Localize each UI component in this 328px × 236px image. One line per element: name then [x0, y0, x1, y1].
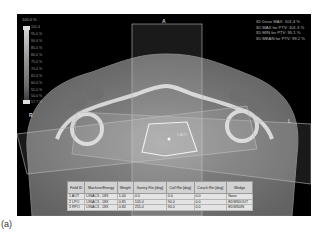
- stat-line: 3D MIN for PTV: 95.1 %: [256, 30, 305, 36]
- beam-table: Field ID Machine/Energy Weight Gantry Rt…: [67, 181, 253, 211]
- column-header: Wedge: [227, 182, 253, 194]
- scale-tick: 95.0 %: [31, 32, 42, 36]
- column-header: Gantry Rtn [deg]: [133, 182, 166, 194]
- cell: 90.0: [166, 205, 194, 211]
- table-row[interactable]: 3 RPO LINAC3 - 18X 0.84 255.0 90.0 0.0 E…: [68, 205, 253, 211]
- cell: EDW30IN: [227, 205, 253, 211]
- isocenter-marker: [168, 138, 171, 141]
- scale-bottom-handle[interactable]: [23, 100, 30, 104]
- cell: 0.84: [117, 205, 133, 211]
- scale-tick: 90.0 %: [31, 39, 42, 43]
- column-header: Coll Rtn [deg]: [166, 182, 194, 194]
- orientation-right: R: [29, 112, 33, 118]
- scale-header: 100.0 %: [22, 17, 37, 22]
- scale-tick: 50.0 %: [31, 94, 42, 98]
- field-label: 1 AOT: [177, 133, 188, 137]
- cell: 255.0: [133, 205, 166, 211]
- scale-bar: [24, 27, 29, 101]
- scale-tick: 70.0 %: [31, 67, 42, 71]
- scale-tick: 75.0 %: [31, 60, 42, 64]
- dose-statistics: 3D Dose MAX: 101.4 % 3D MAX for PTV: 101…: [256, 19, 305, 41]
- scale-tick: 55.0 %: [31, 88, 42, 92]
- scale-tick: 80.0 %: [31, 53, 42, 57]
- column-header: Couch Rtn [deg]: [194, 182, 227, 194]
- stat-line: 3D Dose MAX: 101.4 %: [256, 19, 305, 25]
- table-header-row: Field ID Machine/Energy Weight Gantry Rt…: [68, 182, 253, 194]
- cell: 0.0: [194, 205, 227, 211]
- dose-color-scale: 100.0 % 101.4 95.0 % 90.0 % 85.0 % 80.0 …: [22, 17, 48, 107]
- scale-tick: 65.0 %: [31, 74, 42, 78]
- cell: LINAC3 - 18X: [85, 205, 118, 211]
- scale-tick: 60.0 %: [31, 81, 42, 85]
- stat-line: 3D MEAN for PTV: 99.2 %: [256, 36, 305, 42]
- column-header: Machine/Energy: [85, 182, 118, 194]
- orientation-anterior: A: [162, 18, 166, 24]
- scale-tick: 85.0 %: [31, 46, 42, 50]
- scale-bottom-value: 17.7 %: [31, 100, 42, 104]
- figure-caption: (a): [1, 219, 12, 229]
- column-header: Weight: [117, 182, 133, 194]
- scale-top-value: 101.4: [31, 25, 40, 29]
- scale-top-handle[interactable]: [23, 26, 30, 30]
- column-header: Field ID: [68, 182, 85, 194]
- cell: 3 RPO: [68, 205, 85, 211]
- dose-view-panel: 1 AOT 100.0 % 101.4 95.0 % 90.0 % 85.0 %…: [17, 14, 311, 216]
- orientation-left: L: [288, 118, 291, 124]
